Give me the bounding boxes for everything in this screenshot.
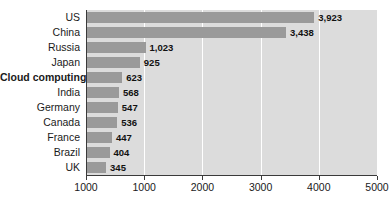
gridline (377, 10, 378, 175)
bar-value-label: 3,923 (318, 10, 342, 25)
bar-value-label: 568 (123, 85, 139, 100)
value-axis-line (86, 175, 377, 176)
value-axis-left-edge (86, 10, 87, 175)
bar-value-label: 547 (122, 100, 138, 115)
bar-value-label: 925 (144, 55, 160, 70)
tick-mark (261, 176, 262, 180)
bar (86, 72, 122, 83)
bar-row: 447 (86, 130, 377, 145)
bar-row: 1,023 (86, 40, 377, 55)
bar-value-label: 447 (116, 130, 132, 145)
bar (86, 102, 118, 113)
tick-mark (377, 176, 378, 180)
bar (86, 12, 314, 23)
tick-label: 5000 (365, 181, 388, 193)
bar-row: 345 (86, 160, 377, 175)
tick-label: 1000 (74, 181, 97, 193)
category-label: Brazil (0, 145, 84, 160)
bar-value-label: 404 (114, 145, 130, 160)
bar-row: 3,438 (86, 25, 377, 40)
tick-label: 2000 (191, 181, 214, 193)
category-label: Germany (0, 100, 84, 115)
bar-value-label: 536 (121, 115, 137, 130)
category-label: UK (0, 160, 84, 175)
tick-label: 3000 (249, 181, 272, 193)
bar-row: 3,923 (86, 10, 377, 25)
tick-label: 1000 (133, 181, 156, 193)
bar-value-label: 3,438 (290, 25, 314, 40)
tick-mark (86, 176, 87, 180)
category-label: Japan (0, 55, 84, 70)
category-label: France (0, 130, 84, 145)
bar (86, 57, 140, 68)
bar (86, 42, 146, 53)
category-label: Russia (0, 40, 84, 55)
bar (86, 132, 112, 143)
tick-label: 4000 (307, 181, 330, 193)
bar (86, 147, 110, 158)
bar (86, 117, 117, 128)
plot-area: 3,9233,4381,023925623568547536447404345 (86, 10, 377, 175)
bar-value-label: 1,023 (150, 40, 174, 55)
bar-row: 623 (86, 70, 377, 85)
category-label: US (0, 10, 84, 25)
bar-row: 568 (86, 85, 377, 100)
category-axis: USChinaRussiaJapanCloud computingIndiaGe… (0, 10, 84, 175)
bar-row: 547 (86, 100, 377, 115)
bar-value-label: 623 (126, 70, 142, 85)
bar-row: 925 (86, 55, 377, 70)
bar (86, 87, 119, 98)
bar-row: 536 (86, 115, 377, 130)
bar (86, 162, 106, 173)
bar-chart: USChinaRussiaJapanCloud computingIndiaGe… (0, 0, 391, 211)
category-label: Canada (0, 115, 84, 130)
category-label: India (0, 85, 84, 100)
tick-mark (144, 176, 145, 180)
category-label: China (0, 25, 84, 40)
bars-group: 3,9233,4381,023925623568547536447404345 (86, 10, 377, 175)
bar (86, 27, 286, 38)
tick-mark (202, 176, 203, 180)
tick-mark (319, 176, 320, 180)
bar-value-label: 345 (110, 160, 126, 175)
bar-row: 404 (86, 145, 377, 160)
category-label: Cloud computing (0, 70, 84, 85)
